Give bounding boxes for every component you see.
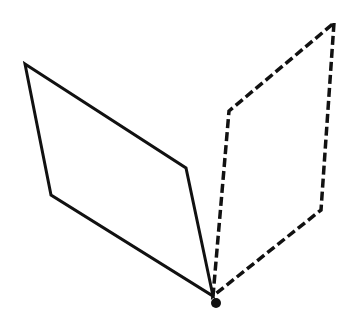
dihedral-diagram: [0, 0, 357, 330]
solid-plane: [25, 64, 213, 296]
dashed-plane: [213, 23, 334, 296]
vertex-point: [211, 298, 221, 308]
